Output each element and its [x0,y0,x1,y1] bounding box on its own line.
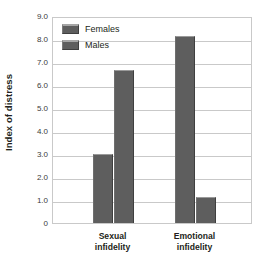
bar-females-sexual [93,154,113,223]
bar-males-emotional [196,197,216,223]
gridline [53,110,251,111]
y-tick-label: 9.0 [24,13,48,21]
y-tick-label: 1.0 [24,197,48,205]
y-axis-tick-labels: 9.08.07.06.05.04.03.02.01.00 [18,0,48,271]
legend-item-label: Females [85,24,120,34]
x-category-label-line2: infidelity [150,242,240,253]
y-tick-label: 8.0 [24,36,48,44]
y-tick-label: 7.0 [24,59,48,67]
gridline [53,64,251,65]
legend-item[interactable]: Females [62,23,120,34]
legend-item[interactable]: Males [62,39,120,50]
gridline [53,87,251,88]
y-axis-title-label: Index of distress [4,73,15,150]
legend-swatch-males [62,40,79,50]
gridline [53,202,251,203]
x-category-label: Sexualinfidelity [68,231,158,253]
x-category-label: Emotionalinfidelity [150,231,240,253]
y-tick-label: 3.0 [24,151,48,159]
legend-swatch-females [62,24,79,34]
y-tick-label: 2.0 [24,174,48,182]
x-category-label-line2: infidelity [68,242,158,253]
x-category-label-line1: Emotional [150,231,240,242]
y-tick-label: 0 [24,220,48,228]
bar-chart: Index of distress 9.08.07.06.05.04.03.02… [0,0,271,271]
legend-item-label: Males [85,40,109,50]
gridline [53,179,251,180]
chart-legend: FemalesMales [62,23,120,50]
gridline [53,133,251,134]
bar-males-sexual [114,70,134,223]
y-tick-label: 6.0 [24,82,48,90]
y-tick-label: 4.0 [24,128,48,136]
x-category-label-line1: Sexual [68,231,158,242]
gridline [53,156,251,157]
y-tick-label: 5.0 [24,105,48,113]
bar-females-emotional [175,36,195,223]
y-axis-title: Index of distress [0,0,18,224]
